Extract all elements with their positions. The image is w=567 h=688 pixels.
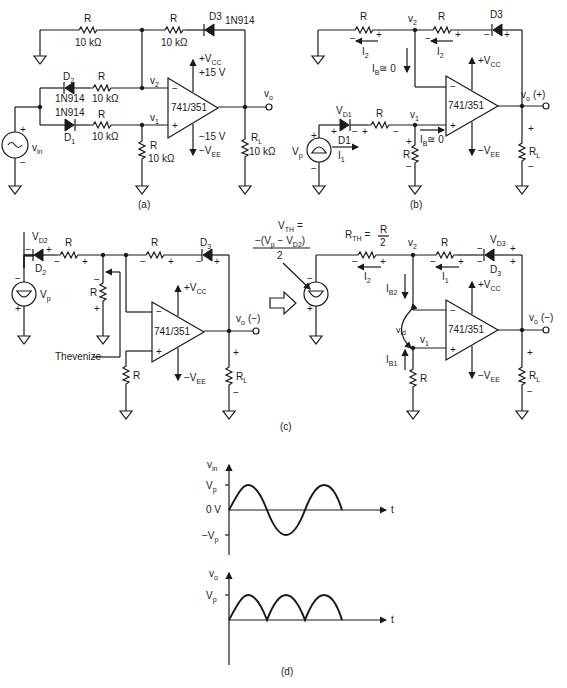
vth-denominator: 2 <box>277 250 283 261</box>
vcc-label: +VCC <box>199 53 222 66</box>
caption-a: (a) <box>138 199 150 210</box>
rl-label: RL <box>529 146 540 159</box>
minus-sign: − <box>94 274 100 285</box>
d3-label: D3 <box>490 264 501 277</box>
plus-sign: + <box>20 124 26 135</box>
plus-sign: + <box>82 256 88 267</box>
r-label: R <box>403 149 410 160</box>
minus-sign: − <box>350 33 356 44</box>
d1-label: D1 <box>64 132 75 145</box>
thevenize-label: Thevenize <box>55 351 102 362</box>
d3-part: 1N914 <box>225 15 255 26</box>
vo-label: vo(+) <box>521 89 545 102</box>
vo-axis-label: vo <box>209 568 218 581</box>
r-label: R <box>151 237 158 248</box>
d3-label: D3 <box>200 237 211 250</box>
i1-label: I1 <box>442 271 449 284</box>
panel-c-left-circuit: VD2 D2 R R D3 − + − + − + − + − + Vp R −… <box>12 231 260 419</box>
plus-sign: + <box>94 303 100 314</box>
vp-label: Vp <box>40 289 51 303</box>
r-label: R <box>98 71 105 82</box>
v1-label: v1 <box>150 112 159 125</box>
vd1-label: VD1 <box>336 105 352 118</box>
d2-label: D2 <box>63 71 74 84</box>
vcc-label: +VCC <box>478 55 501 68</box>
output-terminal <box>266 104 272 110</box>
vd2-label: VD2 <box>32 231 48 244</box>
rth-label: RTH= <box>345 229 371 242</box>
d3-label: D3 <box>209 11 222 22</box>
minus-sign: − <box>406 161 412 172</box>
minus-sign: − <box>477 256 483 267</box>
vo-label: vo(−) <box>529 312 553 325</box>
d1-label: D1 <box>338 135 351 146</box>
minus-sign: − <box>393 126 399 137</box>
r-label: R <box>150 140 157 151</box>
rth-numerator: R <box>380 224 387 235</box>
panel-b-circuit: R R D3 v2 − + − + − + I2 I2 IB≅ 0 VD1 R … <box>292 9 549 210</box>
i2-label: I2 <box>437 46 444 59</box>
r-label: R <box>90 287 97 298</box>
minus-sign: − <box>196 256 202 267</box>
minus-sign: − <box>233 387 239 398</box>
minus-sign: − <box>528 161 534 172</box>
r-label: R <box>360 11 367 22</box>
r-label: R <box>170 13 177 24</box>
r-label: R <box>441 237 448 248</box>
plus-sign: + <box>362 126 368 137</box>
vee-label: −VEE <box>184 372 206 385</box>
plus-sign: + <box>15 303 21 314</box>
vee-label: −VEE <box>478 370 500 383</box>
x-axis-label: t <box>391 614 394 625</box>
r-value: 10 kΩ <box>75 37 102 48</box>
plus-sign: + <box>311 130 317 141</box>
plus-sign: + <box>528 123 534 134</box>
vo-label: vo <box>264 88 273 101</box>
x-axis-label: t <box>391 504 394 515</box>
vp-label: Vp <box>292 146 303 160</box>
v2-label: v2 <box>150 75 159 88</box>
output-terminal <box>543 103 549 109</box>
i2-label: I2 <box>364 271 371 284</box>
panel-c-right-circuit: VTH= −(Vp − VD2) 2 RTH= R 2 v2 R VD3 D3 … <box>253 220 553 432</box>
r-value: 10 kΩ <box>161 37 188 48</box>
r-label: R <box>438 11 445 22</box>
plus-sign: + <box>233 347 239 358</box>
minus-sign: − <box>20 157 26 168</box>
plus-sign: + <box>455 29 461 40</box>
rl-value: 10 kΩ <box>249 146 276 157</box>
vin-label: vin <box>32 142 43 155</box>
i1-label: I1 <box>338 150 345 163</box>
v2-label: v2 <box>408 13 417 26</box>
opamp-label: 741/351 <box>154 326 191 337</box>
panel-a-circuit: R 10 kΩ R 10 kΩ D3 1N914 D2 1N914 R 10 k… <box>2 11 276 210</box>
plus-sign: + <box>406 136 412 147</box>
vee-label: −VEE <box>478 145 500 158</box>
vin-axis-label: vin <box>207 459 218 472</box>
plus-sign: + <box>46 244 52 255</box>
vp-source-icon <box>307 138 331 162</box>
vth-label: VTH= <box>278 220 303 233</box>
tick-zero: 0 V <box>206 504 221 515</box>
d2-part: 1N914 <box>55 93 85 104</box>
ib1-label: IB1 <box>386 354 397 367</box>
vcc-label: +VCC <box>184 282 207 295</box>
d2-label: D2 <box>35 263 46 276</box>
plus-sign: + <box>504 29 510 40</box>
tick-vp: Vp <box>206 480 217 494</box>
opamp-label: 741/351 <box>448 100 485 111</box>
rl-label: RL <box>529 370 540 383</box>
plus-sign: + <box>527 347 533 358</box>
transform-arrow-icon <box>270 292 296 314</box>
d1-part: 1N914 <box>55 107 85 118</box>
vth-numerator: −(Vp − VD2) <box>255 235 305 249</box>
r-value: 10 kΩ <box>148 153 175 164</box>
tick-neg-vp: −Vp <box>202 530 219 544</box>
minus-sign: − <box>477 243 483 254</box>
minus-sign: − <box>430 256 436 267</box>
opamp-label: 741/351 <box>448 324 485 335</box>
minus-sign: − <box>307 273 313 284</box>
r-label: R <box>420 373 427 384</box>
plus-sign: + <box>380 256 386 267</box>
minus-sign: − <box>140 256 146 267</box>
